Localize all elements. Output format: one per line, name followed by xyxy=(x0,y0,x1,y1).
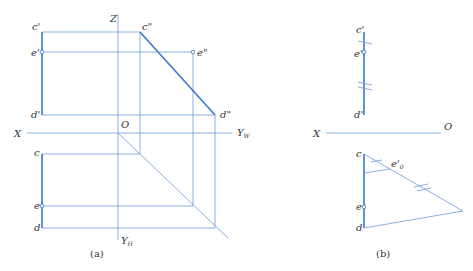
label-d-prime: d' xyxy=(31,109,40,120)
e-prime-point-b xyxy=(362,50,366,54)
label-c-b: c xyxy=(356,148,362,159)
e-point xyxy=(40,204,44,208)
label-e-dprime: e" xyxy=(197,47,208,58)
label-e-b: e xyxy=(356,201,362,212)
caption-b: (b) xyxy=(376,248,390,259)
projection-diagram: Z X O YW YH c' e' d' c" e" d" c e d (a) xyxy=(0,0,473,271)
label-d: d xyxy=(34,222,40,233)
label-c-dprime: c" xyxy=(142,21,152,32)
label-d-prime-b: d' xyxy=(354,109,363,120)
origin-label: O xyxy=(121,119,129,130)
true-length-line xyxy=(364,154,463,211)
tick-mark xyxy=(358,87,372,90)
closing-line xyxy=(364,211,463,228)
label-c: c xyxy=(34,147,40,158)
yh-axis-label: YH xyxy=(121,235,134,247)
label-d-dprime: d" xyxy=(220,109,231,120)
origin-label-b: O xyxy=(444,121,452,132)
diagram-svg: Z X O YW YH c' e' d' c" e" d" c e d (a) xyxy=(0,0,473,271)
label-c-prime: c' xyxy=(32,21,40,32)
x-axis-label: X xyxy=(13,128,22,139)
z-axis-label: Z xyxy=(109,13,118,24)
label-c-prime-b: c' xyxy=(356,24,364,35)
yw-axis-label: YW xyxy=(237,127,251,139)
label-e0-prime: e'0 xyxy=(391,158,404,170)
cd-side-view xyxy=(140,32,215,115)
label-e-prime: e' xyxy=(31,47,40,58)
45-degree-line xyxy=(118,133,228,238)
label-e-prime-b: e' xyxy=(354,48,363,59)
figure-a: Z X O YW YH c' e' d' c" e" d" c e d (a) xyxy=(13,13,251,259)
figure-b: X O c' e' d' c e d e'0 (b) xyxy=(312,24,463,259)
x-axis-label-b: X xyxy=(312,128,321,139)
label-e: e xyxy=(34,200,40,211)
tick-mark xyxy=(358,82,372,85)
e-prime-point xyxy=(40,50,44,54)
e-dprime-point xyxy=(191,50,195,54)
caption-a: (a) xyxy=(90,248,104,259)
parallel-line xyxy=(364,169,390,173)
e-point-b xyxy=(362,205,366,209)
tick-mark xyxy=(358,41,372,44)
label-d-b: d xyxy=(356,222,362,233)
